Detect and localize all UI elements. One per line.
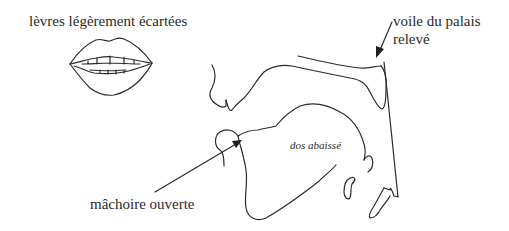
upper-lip-profile	[210, 65, 226, 107]
upper-lip-outer	[70, 38, 152, 64]
tongue-dorsum	[238, 104, 365, 160]
pharyngeal-wall	[384, 62, 398, 197]
lower-jaw	[238, 136, 336, 220]
epiglottis	[369, 188, 390, 218]
tongue-root	[364, 156, 373, 172]
lower-incisor	[216, 130, 239, 166]
lips-illustration	[70, 38, 152, 95]
velum-raised	[298, 56, 381, 68]
jaw-arrow	[155, 140, 242, 192]
hyoid	[344, 177, 355, 198]
hard-palate	[226, 65, 386, 110]
vocal-tract-illustration	[210, 56, 398, 220]
velum-arrow	[376, 22, 392, 58]
articulation-drawing	[0, 0, 509, 231]
mouth-opening-lower	[74, 64, 150, 74]
